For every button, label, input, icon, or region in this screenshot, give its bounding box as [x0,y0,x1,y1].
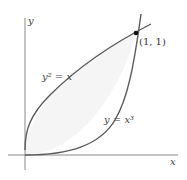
curve-sqrt-label: y² = x [41,71,72,82]
intersection-label: (1, 1) [139,36,166,47]
intersection-point [134,31,139,36]
shaded-region [25,33,136,155]
x-axis-label: x [170,156,176,167]
curve-cube-label: y = x³ [103,114,134,125]
y-axis-label: y [27,15,34,26]
graph: y x y² = x y = x³ (1, 1) [0,0,187,180]
